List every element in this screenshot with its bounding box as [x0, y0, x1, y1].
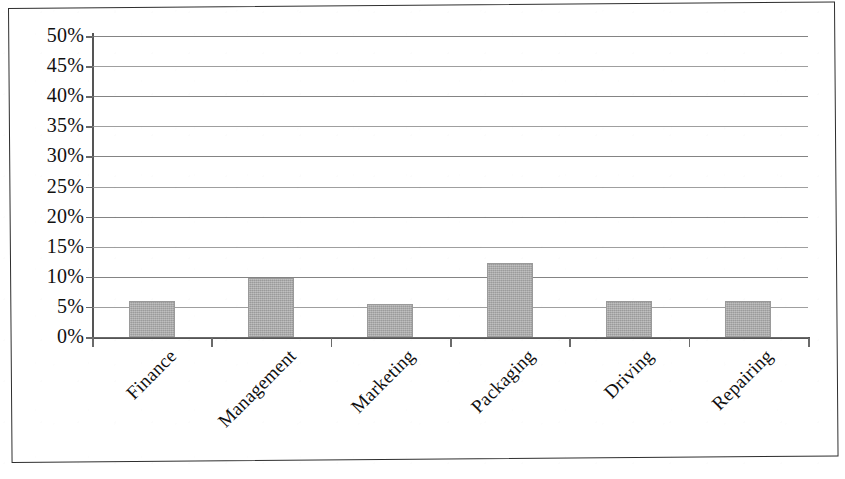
x-axis-tick-mark: [450, 338, 452, 347]
bar: [367, 304, 413, 337]
y-axis-tick-mark: [86, 156, 93, 158]
x-axis-tick-mark: [808, 338, 810, 347]
gridline: [92, 36, 808, 37]
y-axis-tick-mark: [86, 277, 93, 279]
bar-chart: 0%5%10%15%20%25%30%35%40%45%50% FinanceM…: [0, 0, 845, 479]
bar: [606, 301, 652, 337]
x-axis-category-label: Marketing: [347, 345, 419, 417]
y-axis-tick-label: 25%: [22, 176, 84, 196]
x-axis-category-label: Packaging: [466, 345, 538, 417]
gridline: [92, 96, 808, 97]
y-axis-labels: 0%5%10%15%20%25%30%35%40%45%50%: [22, 0, 84, 479]
bar: [248, 278, 294, 337]
y-axis-tick-mark: [86, 217, 93, 219]
y-axis-tick-label: 0%: [22, 326, 84, 346]
y-axis-tick-label: 15%: [22, 236, 84, 256]
plot-area: [92, 36, 808, 337]
gridline: [92, 277, 808, 278]
gridline: [92, 217, 808, 218]
gridline: [92, 126, 808, 127]
gridline: [92, 156, 808, 157]
bar: [129, 301, 175, 337]
x-axis-tick-mark: [689, 338, 691, 347]
x-axis-category-label: Finance: [122, 345, 180, 403]
x-axis-tick-mark: [211, 338, 213, 347]
gridline: [92, 307, 808, 308]
y-axis-tick-label: 45%: [22, 55, 84, 75]
y-axis-tick-mark: [86, 66, 93, 68]
x-axis-category-label: Repairing: [708, 345, 777, 414]
gridline: [92, 66, 808, 67]
y-axis-tick-label: 30%: [22, 145, 84, 165]
y-axis-tick-label: 10%: [22, 266, 84, 286]
y-axis-tick-mark: [86, 247, 93, 249]
bar: [487, 263, 533, 337]
y-axis-tick-mark: [86, 187, 93, 189]
y-axis-tick-label: 20%: [22, 206, 84, 226]
y-axis-tick-label: 40%: [22, 85, 84, 105]
gridline: [92, 187, 808, 188]
x-axis-category-label: Management: [214, 345, 300, 431]
y-axis-tick-mark: [86, 126, 93, 128]
y-axis-tick-mark: [86, 96, 93, 98]
y-axis-tick-label: 5%: [22, 296, 84, 316]
y-axis-tick-label: 50%: [22, 25, 84, 45]
y-axis-tick-mark: [86, 307, 93, 309]
y-axis-tick-mark: [86, 36, 93, 38]
y-axis-tick-label: 35%: [22, 115, 84, 135]
x-axis-category-labels: FinanceManagementMarketingPackagingDrivi…: [92, 345, 808, 465]
x-axis-tick-mark: [569, 338, 571, 347]
x-axis-category-label: Driving: [600, 345, 658, 403]
bar: [725, 301, 771, 337]
gridline: [92, 247, 808, 248]
x-axis-tick-mark: [92, 338, 94, 347]
x-axis-tick-mark: [331, 338, 333, 347]
